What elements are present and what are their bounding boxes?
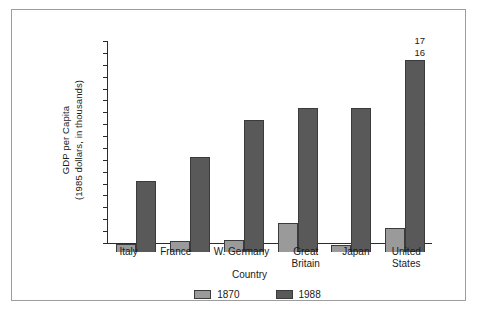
bar-group <box>224 50 264 252</box>
y-axis-tick <box>103 124 108 125</box>
y-axis-tick <box>103 77 108 78</box>
bar-1988 <box>244 120 264 252</box>
y-axis-tick <box>103 41 108 42</box>
bar-group <box>116 50 156 252</box>
x-axis-category-label: Italy <box>119 246 137 269</box>
x-axis-category-label: Japan <box>342 246 369 269</box>
bar-1988 <box>351 108 371 252</box>
y-axis-tick <box>103 89 108 90</box>
legend-label-1870: 1870 <box>217 289 239 300</box>
y-axis-tick <box>103 53 108 54</box>
bar-1988 <box>298 108 318 252</box>
bar-group <box>170 50 210 252</box>
y-axis-tick <box>103 65 108 66</box>
y-axis-title-line1: GDP per Capita <box>60 106 71 174</box>
legend-item-1988: 1988 <box>276 289 321 300</box>
y-axis-tick <box>103 243 108 244</box>
y-axis-tick <box>103 184 108 185</box>
x-axis-category-label: Great Britain <box>292 246 320 269</box>
bar-group <box>331 50 371 252</box>
legend-swatch-1870 <box>194 290 211 299</box>
x-axis-category-label: France <box>160 246 191 269</box>
y-axis-tick-label: 17 <box>414 36 425 46</box>
chart-figure: GDP per Capita (1985 dollars, in thousan… <box>11 9 466 301</box>
y-axis-tick <box>103 160 108 161</box>
bar-groups <box>109 50 432 252</box>
bar-1988 <box>136 181 156 252</box>
y-axis-tick <box>103 100 108 101</box>
y-axis-tick <box>103 172 108 173</box>
x-axis-category-label: W. Germany <box>214 246 270 269</box>
bar-group <box>278 50 318 252</box>
y-axis-title: GDP per Capita (1985 dollars, in thousan… <box>56 34 88 246</box>
axes: 17161514131211109876543210 <box>107 41 432 244</box>
legend-swatch-1988 <box>276 290 293 299</box>
legend-item-1870: 1870 <box>194 289 239 300</box>
plot-area: 17161514131211109876543210 <box>107 32 432 244</box>
y-axis-tick <box>103 136 108 137</box>
x-axis-title-text: Country <box>232 269 267 280</box>
y-axis-tick <box>103 112 108 113</box>
bar-1988 <box>190 157 210 252</box>
y-axis-tick <box>103 219 108 220</box>
y-axis-tick <box>103 195 108 196</box>
y-axis-tick <box>103 231 108 232</box>
bar-group <box>385 50 425 252</box>
x-axis-title: Country <box>12 269 467 280</box>
y-axis-title-line2: (1985 dollars, in thousands) <box>72 80 85 200</box>
bar-1988 <box>405 60 425 252</box>
legend-label-1988: 1988 <box>299 289 321 300</box>
x-axis-category-label: United States <box>392 246 421 269</box>
chart-legend: 18701988 <box>30 289 478 300</box>
y-axis-tick <box>103 207 108 208</box>
x-axis-category-labels: ItalyFranceW. GermanyGreat BritainJapanU… <box>108 246 432 269</box>
y-axis-tick <box>103 148 108 149</box>
